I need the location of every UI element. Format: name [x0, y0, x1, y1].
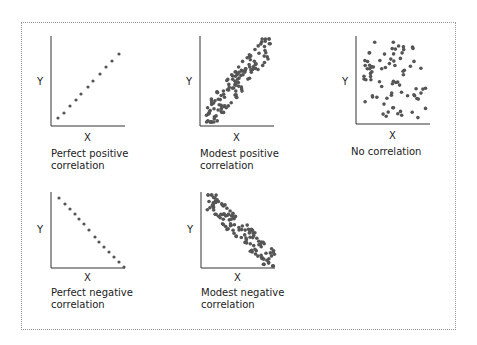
scatter-plot-perfect-positive: [51, 36, 131, 128]
y-axis-label: Y: [37, 76, 43, 87]
x-axis-label: X: [233, 132, 240, 143]
x-axis-label: X: [389, 130, 396, 141]
scatter-plot-no-correlation: [356, 36, 436, 128]
caption: Perfect positive correlation: [51, 148, 171, 172]
caption: No correlation: [351, 146, 471, 158]
y-axis-label: Y: [186, 76, 192, 87]
x-axis-label: X: [84, 272, 91, 283]
caption: Modest positive correlation: [200, 148, 320, 172]
scatter-plot-modest-positive: [200, 36, 280, 128]
y-axis-label: Y: [37, 224, 43, 235]
x-axis-label: X: [84, 132, 91, 143]
y-axis-label: Y: [187, 224, 193, 235]
caption: Perfect negative correlation: [51, 287, 171, 311]
y-axis-label: Y: [342, 76, 348, 87]
x-axis-label: X: [234, 272, 241, 283]
scatter-plot-modest-negative: [201, 192, 281, 270]
scatter-plot-perfect-negative: [51, 192, 131, 270]
caption: Modest negative correlation: [201, 287, 321, 311]
